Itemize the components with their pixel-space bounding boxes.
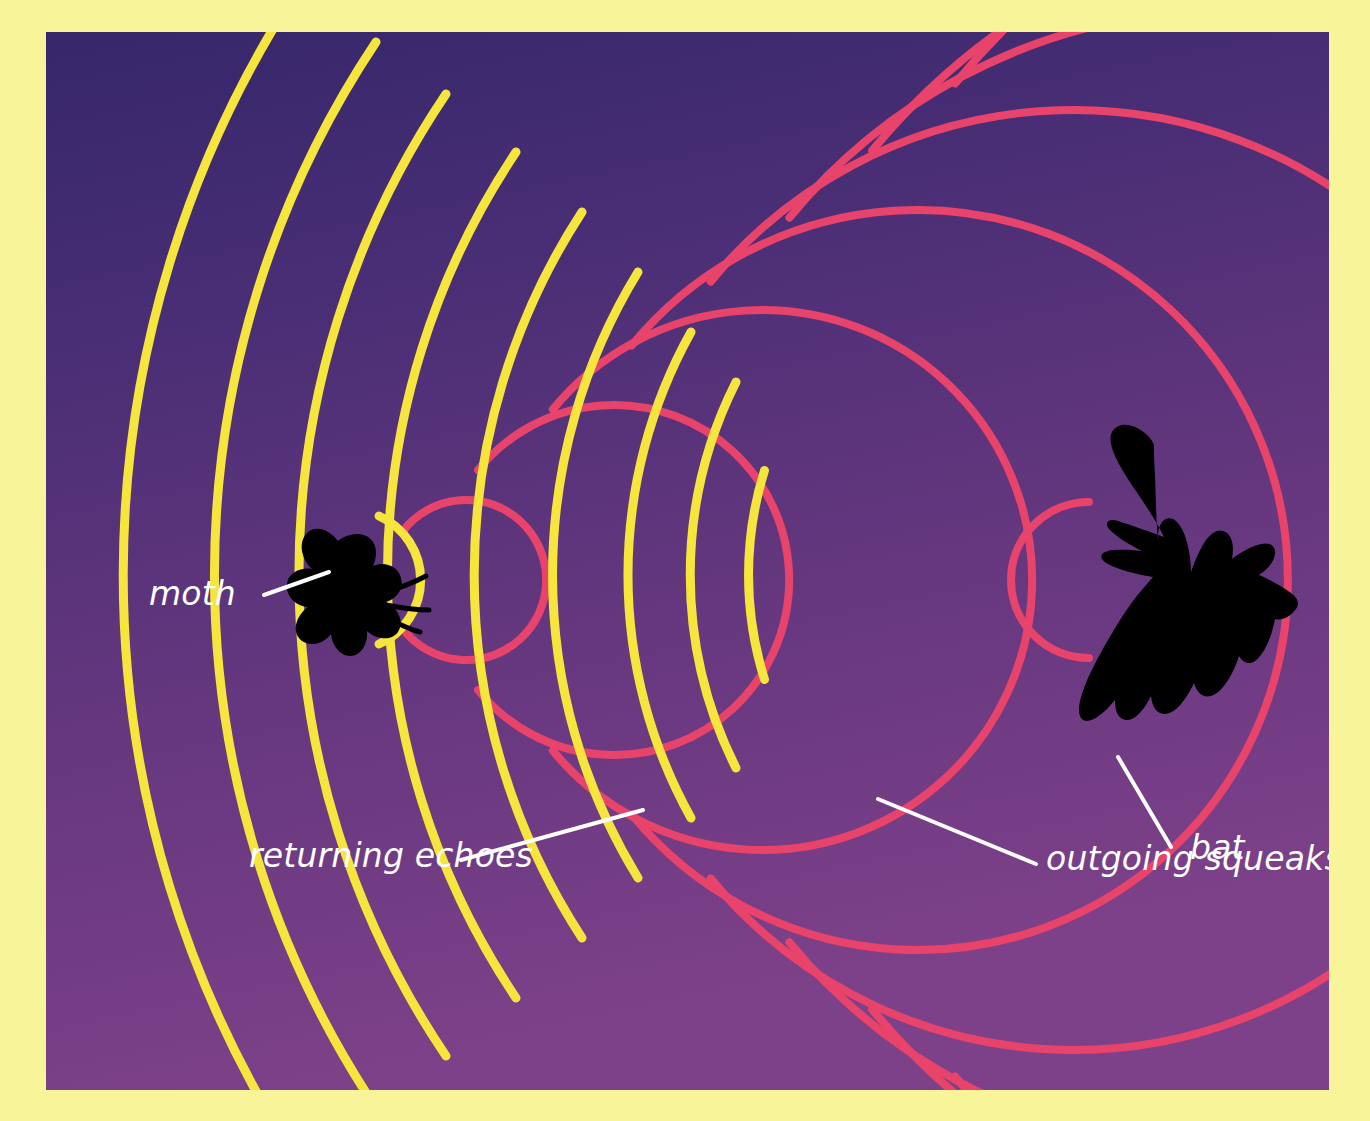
echolocation-illustration: moth bat returning echoes outgoing squea… xyxy=(46,32,1329,1090)
figure-canvas: moth bat returning echoes outgoing squea… xyxy=(0,0,1370,1121)
label-returning-echoes: returning echoes xyxy=(249,836,533,875)
label-moth: moth xyxy=(149,574,236,613)
label-outgoing-squeaks: outgoing squeaks xyxy=(1046,839,1329,878)
